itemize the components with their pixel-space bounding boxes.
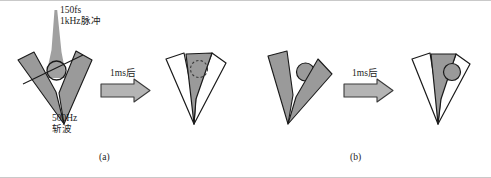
figure-root: 150fs 1kHz脉冲 500Hz 斩波 1ms后 1ms后 (a) (b) — [0, 0, 491, 178]
chopper-wave-label: 500Hz 斩波 — [52, 113, 77, 135]
panel-b-after-state — [412, 53, 470, 124]
transition-arrow-b-label: 1ms后 — [352, 68, 378, 79]
chopper-blade-left-b — [268, 51, 293, 124]
transition-arrow-a-label: 1ms后 — [110, 68, 136, 79]
laser-beam-label: 150fs 1kHz脉冲 — [60, 5, 101, 27]
panel-b-before-state — [268, 51, 332, 124]
block-arrow-shape-a — [101, 79, 150, 102]
panel-a-after-state — [166, 53, 226, 124]
panel-b-caption: (b) — [350, 152, 361, 163]
laser-beam-label-line1: 150fs — [60, 5, 101, 16]
transition-arrow-b — [344, 79, 393, 102]
transition-arrow-a — [101, 79, 150, 102]
chopper-wave-label-line1: 500Hz — [52, 113, 77, 124]
panel-a-caption: (a) — [99, 152, 110, 163]
after-laser-spot-circle-b — [444, 64, 461, 81]
chopper-wave-label-line2: 斩波 — [52, 124, 77, 135]
laser-beam-label-line2: 1kHz脉冲 — [60, 16, 101, 27]
block-arrow-shape-b — [344, 79, 393, 102]
